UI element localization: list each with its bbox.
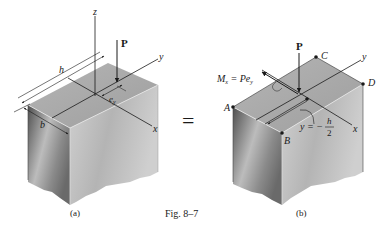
sublabel-a: (a): [70, 208, 80, 218]
panel-b: P Mx = Pey A B C D y x y = − h 2 (b): [216, 40, 376, 218]
corner-label-D: D: [367, 77, 376, 88]
two-denominator: 2: [327, 128, 332, 138]
force-label-b: P: [296, 40, 303, 52]
corner-label-A: A: [223, 102, 231, 113]
y-axis-label-b: y: [361, 51, 367, 62]
sublabel-b: (b): [296, 208, 307, 218]
panel-a: z P y x h b ey (a): [14, 6, 164, 218]
corner-dot-A: [231, 105, 235, 109]
height-dim-label: h: [59, 64, 64, 75]
y-axis-label-a: y: [158, 51, 164, 62]
h-numerator: h: [327, 116, 332, 126]
y-eq-label: y = −: [299, 121, 323, 132]
figure-caption: Fig. 8–7: [165, 208, 198, 219]
corner-dot-C: [314, 55, 318, 59]
x-axis-label-a: x: [152, 123, 158, 134]
corner-label-B: B: [284, 135, 290, 146]
figure-canvas: z P y x h b ey (a) = Fig. 8–7: [0, 0, 385, 232]
force-label-a: P: [121, 37, 128, 49]
corner-label-C: C: [321, 50, 328, 61]
moment-eq: = Pe: [228, 73, 251, 84]
z-axis-label-a: z: [92, 6, 97, 17]
moment-label: Mx = Pey: [216, 73, 253, 85]
x-axis-label-b: x: [352, 123, 358, 134]
corner-dot-D: [361, 82, 365, 86]
moment-eq-sub: y: [249, 79, 253, 85]
eccentricity-sub: y: [112, 99, 116, 105]
width-dim-label: b: [40, 119, 45, 130]
equals-sign: =: [182, 108, 194, 133]
